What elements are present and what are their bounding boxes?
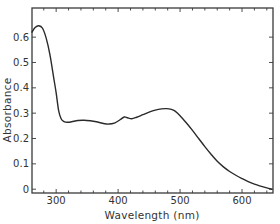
y-tick-label: 0.2 bbox=[13, 133, 29, 144]
plot-frame bbox=[32, 8, 273, 193]
y-tick-label: 0.1 bbox=[13, 158, 29, 169]
spectrum-line bbox=[32, 26, 272, 189]
axes-box bbox=[32, 8, 273, 193]
y-tick-label: 0.6 bbox=[13, 32, 29, 43]
y-tick-label: 0.4 bbox=[13, 82, 29, 93]
x-tick-label: 500 bbox=[171, 195, 190, 206]
x-tick-label: 600 bbox=[232, 195, 251, 206]
y-tick-label: 0.5 bbox=[13, 57, 29, 68]
y-tick-label: 0.3 bbox=[13, 108, 29, 119]
y-axis-title: Absorbance bbox=[1, 77, 13, 142]
y-axis-ticks: 00.10.20.30.40.50.6 bbox=[13, 32, 273, 195]
x-axis-ticks: 300400500600 bbox=[44, 8, 267, 206]
x-tick-label: 300 bbox=[47, 195, 66, 206]
x-tick-label: 400 bbox=[109, 195, 128, 206]
x-axis-title: Wavelength (nm) bbox=[104, 209, 199, 221]
absorbance-chart: 300400500600 00.10.20.30.40.50.6 Wavelen… bbox=[0, 0, 280, 224]
y-tick-label: 0 bbox=[23, 184, 29, 195]
